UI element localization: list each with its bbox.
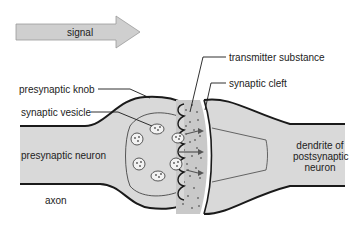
dendrite-label-line2: postsynaptic	[293, 151, 347, 162]
synaptic-vesicle-label: synaptic vesicle	[21, 107, 91, 118]
synaptic-cleft-label: synaptic cleft	[229, 78, 287, 89]
axon-label: axon	[45, 195, 67, 206]
presynaptic-knob-label: presynaptic knob	[19, 84, 95, 95]
dendrite-label-line3: neuron	[293, 162, 347, 173]
signal-label: signal	[67, 27, 93, 38]
presynaptic-neuron-label: presynaptic neuron	[21, 150, 106, 161]
dendrite-label-line1: dendrite of	[293, 140, 347, 151]
transmitter-substance-label: transmitter substance	[229, 52, 325, 63]
dendrite-label: dendrite of postsynaptic neuron	[293, 140, 347, 173]
